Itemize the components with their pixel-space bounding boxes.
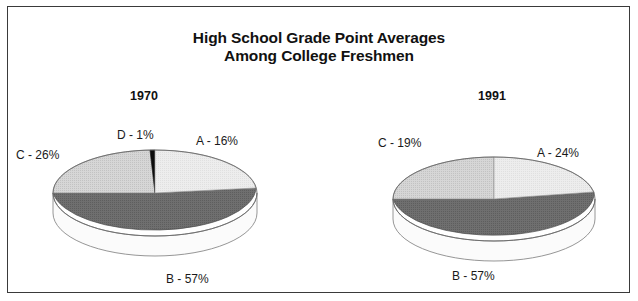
pie-slice-1970-a (155, 150, 256, 193)
pie-slice-1970-c (53, 150, 155, 193)
chart-year-label-1970: 1970 (108, 89, 180, 103)
pie-chart-1991 (389, 155, 599, 267)
pie-chart-1970 (46, 146, 268, 266)
pie-label-1970-a: A - 16% (196, 134, 238, 148)
chart-year-label-1991: 1991 (456, 89, 528, 103)
pie-label-1991-a: A - 24% (537, 146, 579, 160)
pie-label-1970-d: D - 1% (117, 128, 154, 142)
pie-1991-svg (389, 155, 599, 267)
title-line-2: Among College Freshmen (0, 47, 638, 65)
title-line-1: High School Grade Point Averages (0, 29, 638, 47)
pie-label-1970-b: B - 57% (166, 272, 209, 286)
pie-slice-1991-c (393, 157, 494, 199)
pie-slice-1991-a (494, 157, 594, 199)
pie-label-1970-c: C - 26% (16, 148, 59, 162)
figure-root: High School Grade Point Averages Among C… (0, 0, 638, 301)
pie-label-1991-b: B - 57% (452, 269, 495, 283)
pie-1970-svg (46, 146, 268, 266)
pie-label-1991-c: C - 19% (378, 136, 421, 150)
page-title: High School Grade Point Averages Among C… (0, 29, 638, 65)
